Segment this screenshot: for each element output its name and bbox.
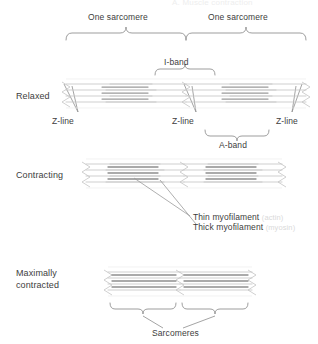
label-sarcomere-left: One sarcomere <box>88 12 148 22</box>
label-sarcomere-right: One sarcomere <box>208 12 268 22</box>
row-relaxed <box>62 79 310 108</box>
label-a-band: A-band <box>219 140 247 150</box>
state-label-relaxed: Relaxed <box>16 91 50 101</box>
callout-thick-text: Thick myofilament <box>193 222 263 232</box>
callout-thick-paren: (myosin) <box>266 223 296 232</box>
row-max-contracted <box>104 267 256 296</box>
state-label-max-contracted-line1: Maximally <box>16 268 57 278</box>
label-sarcomeres: Sarcomeres <box>152 328 199 338</box>
sarcomere-braces <box>66 27 306 40</box>
sarcomeres-braces <box>110 303 248 314</box>
label-z-line-1: Z-line <box>52 116 74 126</box>
callout-thick-myofilament: Thick myofilament (myosin) <box>193 222 295 233</box>
myofilament-leaders <box>134 178 196 224</box>
callout-thin-text: Thin myofilament <box>193 212 259 222</box>
row-contracting <box>82 159 286 188</box>
label-i-band: I-band <box>164 57 189 67</box>
figure-canvas: A. Muscle contraction <box>0 0 318 344</box>
callout-thin-paren: (actin) <box>262 213 284 222</box>
sarcomeres-leaders <box>143 316 215 328</box>
label-z-line-3: Z-line <box>276 116 298 126</box>
state-label-contracting: Contracting <box>16 170 63 180</box>
state-label-max-contracted-line2: contracted <box>16 280 59 290</box>
label-z-line-2: Z-line <box>172 116 194 126</box>
